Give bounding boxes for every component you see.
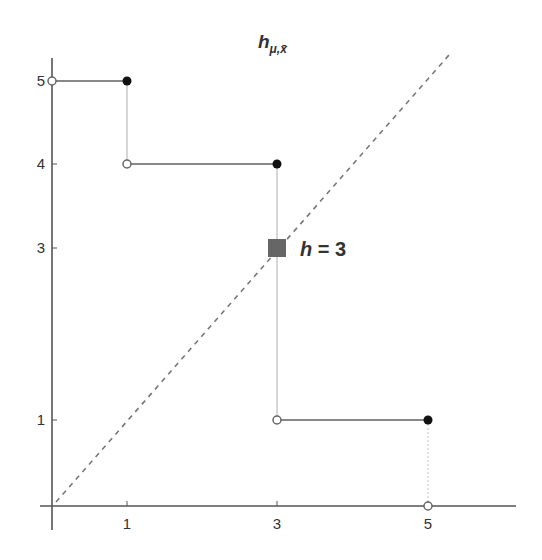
title-subscript: μ,x̄ xyxy=(269,42,289,56)
x-tick-label-1: 1 xyxy=(123,515,131,532)
open-circle-marker xyxy=(123,160,131,168)
y-tick-label-4: 4 xyxy=(37,155,45,172)
step-segments xyxy=(52,81,428,420)
filled-dot-marker xyxy=(273,160,282,169)
open-circle-marker xyxy=(424,502,432,510)
filled-dot-marker xyxy=(123,77,132,86)
fixed-point-square-marker xyxy=(268,239,286,257)
x-tick-label-5: 5 xyxy=(424,515,432,532)
y-tick-label-5: 5 xyxy=(37,72,45,89)
drop-lines xyxy=(127,81,428,506)
axes xyxy=(40,58,516,530)
filled-dot-marker xyxy=(424,416,433,425)
chart-title: hμ,x̄ xyxy=(258,31,288,56)
step-function-chart: 1 3 5 1 3 4 5 hμ,x̄ h = 3 xyxy=(0,0,542,560)
annotation-h: h xyxy=(300,238,312,260)
open-circle-marker xyxy=(48,77,56,85)
x-tick-label-3: 3 xyxy=(273,515,281,532)
title-main: h xyxy=(258,31,270,52)
open-markers xyxy=(48,77,432,510)
y-tick-label-3: 3 xyxy=(37,239,45,256)
diagonal-dashed-line xyxy=(56,55,449,502)
annotation-equals-value: = 3 xyxy=(312,238,346,260)
open-circle-marker xyxy=(273,416,281,424)
y-tick-label-1: 1 xyxy=(37,411,45,428)
fixed-point-annotation: h = 3 xyxy=(300,238,346,260)
